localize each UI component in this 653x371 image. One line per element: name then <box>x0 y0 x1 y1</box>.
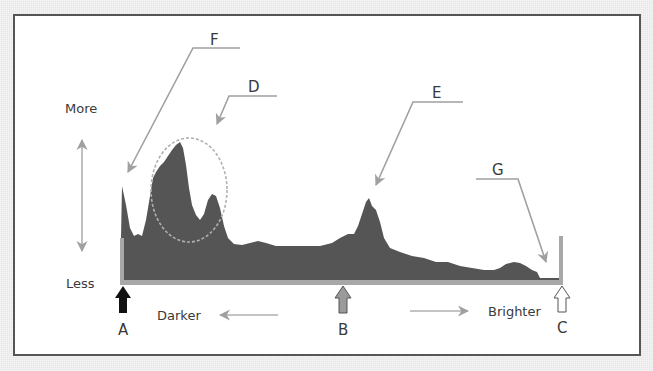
callout-g-line <box>476 179 546 262</box>
histogram-baseline <box>121 280 563 285</box>
label-g: G <box>492 161 504 179</box>
label-a: A <box>118 321 129 339</box>
callout-e-line <box>376 102 463 185</box>
callout-d-line <box>217 96 277 124</box>
label-less: Less <box>66 276 95 291</box>
label-darker: Darker <box>157 308 201 323</box>
marker-b-midtone-icon <box>335 286 351 313</box>
marker-c-white-point-icon <box>554 286 570 312</box>
label-c: C <box>557 319 567 337</box>
right-edge-bar <box>559 236 563 285</box>
histogram-diagram: More Less Darker Brighter A B C F D E G <box>0 0 653 371</box>
left-edge-bar <box>120 238 124 285</box>
label-b: B <box>338 321 348 339</box>
label-more: More <box>65 101 97 116</box>
label-f: F <box>210 31 219 49</box>
label-brighter: Brighter <box>488 304 541 319</box>
marker-a-black-point-icon <box>115 286 131 313</box>
label-d: D <box>248 78 260 96</box>
label-e: E <box>432 84 441 102</box>
